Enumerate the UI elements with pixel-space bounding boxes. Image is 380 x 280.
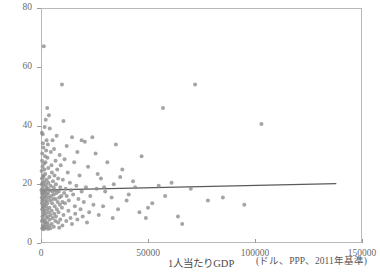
x-axis-label: 1人当たりGDP: [168, 258, 234, 269]
x-axis-unit-note: (ドル、PPP、2011年基準): [256, 256, 367, 267]
y-tick-mark: [37, 184, 41, 185]
x-tick-mark: [255, 239, 256, 243]
y-tick-label: 60: [2, 62, 32, 72]
y-tick-label: 40: [2, 121, 32, 131]
y-tick-mark: [37, 126, 41, 127]
y-tick-label: 0: [2, 238, 32, 248]
x-tick-label: 0: [6, 249, 76, 259]
plot-area: [41, 8, 362, 243]
y-tick-mark: [37, 67, 41, 68]
y-tick-label: 80: [2, 3, 32, 13]
y-tick-mark: [37, 243, 41, 244]
y-tick-label: 20: [2, 179, 32, 189]
y-tick-mark: [37, 8, 41, 9]
x-tick-mark: [148, 239, 149, 243]
x-tick-mark: [41, 239, 42, 243]
scatter-chart: 020406080 050000100000150000 1人当たりGDP (ド…: [0, 0, 380, 280]
x-tick-mark: [362, 239, 363, 243]
